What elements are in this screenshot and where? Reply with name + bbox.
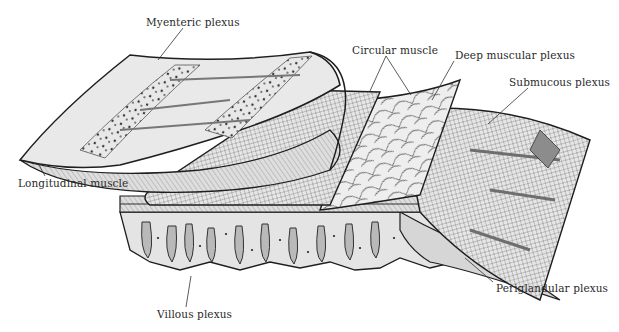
label-myenteric-plexus: Myenteric plexus	[146, 17, 240, 28]
diagram-canvas: Myenteric plexus Circular muscle Deep mu…	[0, 0, 619, 332]
label-submucous-plexus: Submucous plexus	[509, 77, 610, 88]
label-longitudinal-muscle: Longitudinal muscle	[18, 178, 128, 189]
label-deep-muscular-plexus: Deep muscular plexus	[455, 50, 575, 61]
leader-myenteric	[158, 28, 183, 60]
leader-circular-a	[370, 56, 386, 91]
label-periglandular-plexus: Periglandular plexus	[496, 283, 608, 294]
label-villous-plexus: Villous plexus	[157, 309, 232, 320]
leader-circular-b	[386, 56, 411, 95]
label-circular-muscle: Circular muscle	[352, 45, 438, 56]
leader-villous	[186, 276, 191, 307]
